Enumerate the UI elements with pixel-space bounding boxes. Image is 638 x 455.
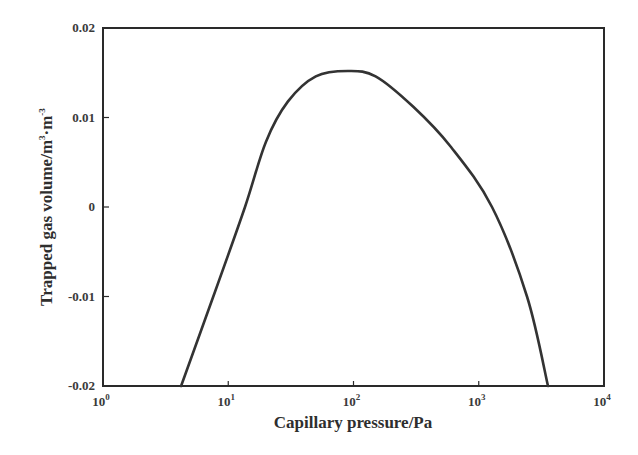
y-axis-title-mid: ·m: [37, 116, 56, 136]
x-tick-label: 104: [593, 392, 611, 409]
chart: 100101102103104 0.020.010-0.01-0.02 Capi…: [0, 0, 638, 455]
x-tick-exp: 2: [356, 392, 361, 402]
y-axis-title: Trapped gas volume/m3·m-3: [37, 108, 56, 306]
x-tick-exp: 1: [231, 392, 236, 402]
x-tick-label: 101: [218, 392, 236, 409]
plot-frame: [103, 28, 604, 386]
trapped-gas-curve: [181, 71, 548, 386]
x-tick-base: 10: [218, 394, 231, 409]
y-axis-title-sup2: -3: [37, 108, 47, 116]
x-tick-exp: 4: [606, 392, 611, 402]
x-tick-label: 102: [343, 392, 361, 409]
x-tick-label: 100: [92, 392, 110, 409]
y-axis-title-main: Trapped gas volume/m: [37, 140, 56, 306]
data-series: [181, 71, 548, 386]
x-tick-exp: 3: [481, 392, 486, 402]
x-tick-base: 10: [593, 394, 606, 409]
y-tick-label: 0.02: [72, 20, 95, 35]
x-axis-title: Capillary pressure/Pa: [274, 413, 433, 432]
y-tick-label: -0.01: [68, 289, 95, 304]
x-tick-base: 10: [468, 394, 481, 409]
y-tick-label: 0: [89, 199, 96, 214]
x-tick-base: 10: [92, 394, 105, 409]
y-tick-label: 0.01: [72, 110, 95, 125]
x-tick-base: 10: [343, 394, 356, 409]
x-tick-label: 103: [468, 392, 486, 409]
x-tick-exp: 0: [105, 392, 110, 402]
y-tick-label: -0.02: [68, 378, 95, 393]
